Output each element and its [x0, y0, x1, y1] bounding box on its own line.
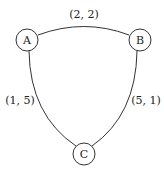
- edge-b-c: (5, 1): [92, 51, 161, 146]
- edge-a-b: (2, 2): [38, 8, 129, 35]
- edge-label-a-b: (2, 2): [69, 8, 99, 21]
- edge-label-b-c: (5, 1): [131, 94, 161, 107]
- node-b: B: [129, 29, 151, 51]
- node-label-c: C: [80, 148, 88, 161]
- node-c: C: [73, 143, 95, 165]
- edge-label-a-c: (1, 5): [5, 94, 35, 107]
- node-label-a: A: [22, 34, 32, 47]
- node-a: A: [16, 29, 38, 51]
- edge-a-c: (1, 5): [5, 51, 76, 146]
- node-label-b: B: [136, 34, 144, 47]
- graph-diagram: (2, 2) (1, 5) (5, 1) A B C: [0, 0, 164, 174]
